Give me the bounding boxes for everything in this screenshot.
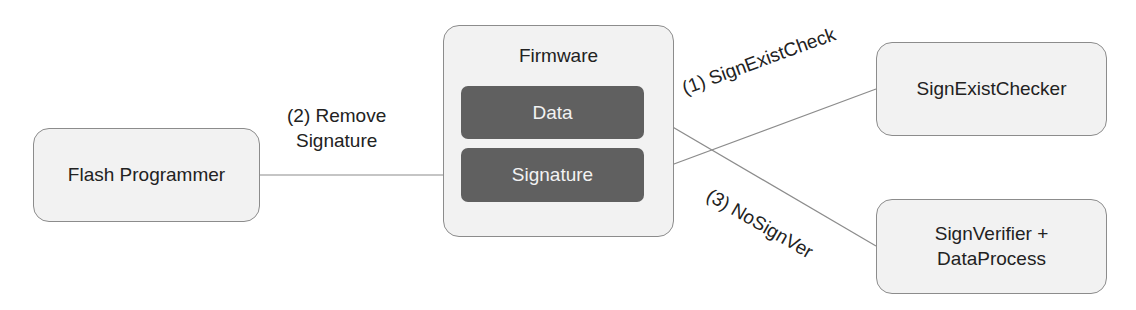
sign-verifier-node: SignVerifier + DataProcess (876, 199, 1107, 294)
edge-label-remove-signature: (2) Remove Signature (287, 104, 386, 153)
sign-exist-checker-node: SignExistChecker (876, 42, 1107, 136)
sign-exist-checker-label: SignExistChecker (917, 77, 1067, 102)
sign-verifier-label-line1: SignVerifier + (935, 222, 1049, 247)
flash-programmer-label: Flash Programmer (68, 163, 225, 188)
signature-label: Signature (512, 164, 593, 186)
edge-label-remove-line1: (2) Remove (287, 104, 386, 129)
firmware-data-block: Data (461, 86, 644, 139)
sign-verifier-label-line2: DataProcess (937, 247, 1046, 272)
flash-programmer-node: Flash Programmer (33, 128, 260, 222)
firmware-title: Firmware (519, 44, 598, 69)
data-label: Data (532, 102, 572, 124)
edge-label-remove-line2: Signature (287, 129, 386, 154)
firmware-signature-block: Signature (461, 148, 644, 202)
